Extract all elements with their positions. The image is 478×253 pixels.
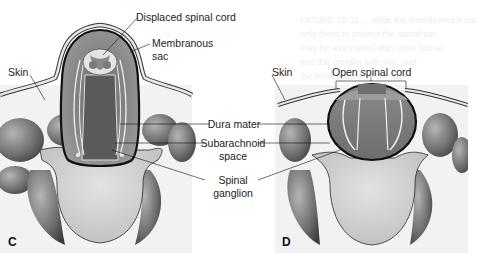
label-subarachnoid-line2: space [200, 150, 266, 162]
label-displaced-spinal-cord: Displaced spinal cord [136, 11, 236, 23]
label-dura-mater: Dura mater [206, 118, 262, 130]
label-subarachnoid-line1: Subarachnoid [200, 137, 266, 149]
label-skin-d: Skin [272, 66, 292, 78]
label-skin-c: Skin [8, 66, 28, 78]
label-membranous-sac-line2: sac [152, 50, 168, 62]
bleed-text: may be associated with other tissue [300, 42, 443, 54]
label-open-spinal-cord: Open spinal cord [332, 66, 411, 78]
panel-letter-d: D [282, 235, 291, 249]
label-spinal-ganglion-line1: Spinal [200, 174, 266, 186]
bleed-text: FIGURE 15-11 ... while the membranous sa… [300, 14, 478, 26]
label-membranous-sac-line1: Membranous [152, 37, 213, 49]
panel-d [275, 84, 468, 253]
bleed-text: only there to protect the spinal sac [300, 28, 437, 40]
label-spinal-ganglion-line2: ganglion [200, 187, 266, 199]
panel-letter-c: C [8, 235, 17, 249]
